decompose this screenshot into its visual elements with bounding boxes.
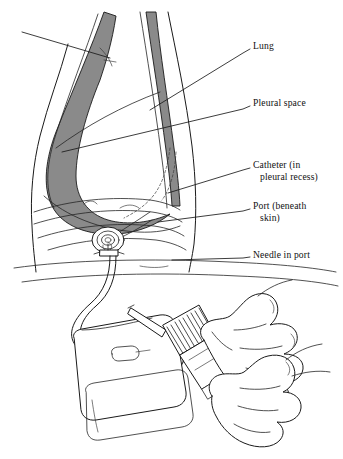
apparatus-group <box>72 256 330 447</box>
callout-port-line2: skin) <box>253 212 306 224</box>
bag-access-port <box>111 346 139 361</box>
bed-line-upper <box>14 260 336 272</box>
leader-pleural-space <box>62 106 250 152</box>
callout-port: Port (beneath skin) <box>253 200 306 225</box>
recess-mark-a <box>84 201 97 204</box>
callout-needle-line1: Needle in port <box>253 249 310 260</box>
catheter-dashed-path <box>124 148 170 218</box>
callout-lung-line1: Lung <box>253 40 274 51</box>
callout-catheter: Catheter (in pleural recess) <box>253 159 318 184</box>
callout-port-line1: Port (beneath <box>253 200 306 211</box>
callout-catheter-line1: Catheter (in <box>253 159 300 170</box>
callout-needle-in-port: Needle in port <box>253 249 310 261</box>
needle-hub-wing-right <box>118 252 124 254</box>
callout-lung: Lung <box>253 40 274 52</box>
leader-catheter <box>168 168 250 193</box>
needle-hub-wing-left <box>94 252 100 254</box>
callout-catheter-line2: pleural recess) <box>253 171 318 183</box>
leader-needle <box>172 257 250 260</box>
needle-hub <box>100 250 118 256</box>
leader-lung <box>150 49 250 110</box>
callout-pleural-space: Pleural space <box>253 97 306 109</box>
anatomy-group <box>14 12 338 286</box>
bed-shadow-mark <box>140 266 168 268</box>
illustration-figure: Lung Pleural space Catheter (in pleural … <box>0 0 343 459</box>
callout-pleural-space-line1: Pleural space <box>253 97 306 108</box>
leader-port <box>158 209 250 222</box>
recess-mark-b <box>120 205 139 208</box>
illustration-canvas <box>0 0 343 459</box>
